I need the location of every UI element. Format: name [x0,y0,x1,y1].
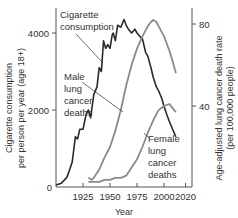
x-tick-label: 2020 [175,191,196,202]
annotation-female-lung-cancer-deaths: cancer [148,157,177,168]
annotation-male-lung-cancer-deaths: cancer [64,95,93,106]
leader-line-cigarette [76,34,102,62]
y-left-tick-label: 2000 [28,105,49,116]
annotation-female-lung-cancer-deaths: deaths [148,169,177,180]
x-tick-label: 1975 [126,191,147,202]
annotation-male-lung-cancer-deaths: lung [64,83,82,94]
y-right-tick-label: 40 [199,101,210,112]
x-tick-label: 1925 [72,191,93,202]
annotation-female-lung-cancer-deaths: Female [148,133,180,144]
annotation-male-lung-cancer-deaths: Male [64,71,85,82]
annotation-male-lung-cancer-deaths: deaths [64,107,93,118]
chart-container: 192519501975200020200200040004080YearCig… [0,0,238,218]
y-right-axis-title-line2: (per 100,000 people) [225,66,235,150]
annotation-female-lung-cancer-deaths: lung [148,145,166,156]
x-axis-title: Year [115,207,133,217]
line-chart: 192519501975200020200200040004080YearCig… [0,0,238,218]
x-tick-label: 1950 [99,191,120,202]
annotation-cigarette-consumption: consumption [60,21,114,32]
y-right-tick-label: 80 [199,19,210,30]
y-left-tick-label: 4000 [28,28,49,39]
x-tick-label: 2000 [153,191,174,202]
y-left-axis-title-line1: Cigarette consumption [4,63,14,153]
y-left-axis-title-line2: per person per year (age 18+) [16,48,26,168]
y-left-tick-label: 0 [47,182,52,193]
annotation-cigarette-consumption: Cigarette [60,9,99,20]
y-right-axis-title-line1: Age-adjusted lung cancer death rate [214,35,224,180]
